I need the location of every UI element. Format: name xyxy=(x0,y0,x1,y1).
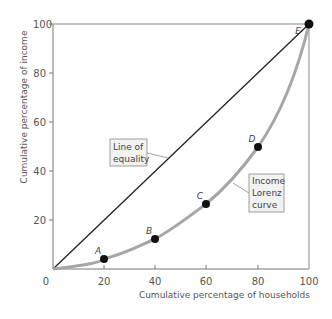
equality-annotation: Line of equality xyxy=(110,139,168,166)
y-tick-label-60: 60 xyxy=(33,117,46,128)
x-tick-label-100: 100 xyxy=(299,276,318,287)
y-tick-label-100: 100 xyxy=(33,19,52,30)
point-c-label: C xyxy=(197,191,204,201)
point-c xyxy=(202,200,210,208)
x-tick-label-40: 40 xyxy=(149,276,162,287)
equality-label-line1: Line of xyxy=(113,142,144,152)
lorenz-label-line3: curve xyxy=(252,200,278,210)
point-a-label: A xyxy=(94,246,101,256)
y-ticks xyxy=(49,24,53,220)
point-e xyxy=(305,20,314,29)
equality-label-line2: equality xyxy=(113,154,150,164)
x-axis-title: Cumulative percentage of households xyxy=(139,290,310,300)
y-axis-title: Cumulative percentage of income xyxy=(19,30,29,183)
y-tick-label-40: 40 xyxy=(33,166,46,177)
lorenz-label-line1: Income xyxy=(252,176,286,186)
point-b-label: B xyxy=(146,226,152,236)
lorenz-chart: 20 40 60 80 100 0 20 40 60 80 100 Cumula… xyxy=(0,0,332,319)
y-tick-label-80: 80 xyxy=(33,68,46,79)
point-e-label: E xyxy=(295,26,301,36)
line-of-equality xyxy=(53,24,309,269)
x-ticks xyxy=(104,265,258,269)
origin-label: 0 xyxy=(43,276,49,287)
x-tick-label-60: 60 xyxy=(200,276,213,287)
point-a xyxy=(100,255,108,263)
x-tick-label-80: 80 xyxy=(252,276,265,287)
point-b xyxy=(151,235,159,243)
lorenz-label-line2: Lorenz xyxy=(252,188,282,198)
lorenz-annotation: Income Lorenz curve xyxy=(233,174,286,212)
y-tick-label-20: 20 xyxy=(33,215,46,226)
x-tick-label-20: 20 xyxy=(98,276,111,287)
point-d-label: D xyxy=(249,134,256,144)
point-d xyxy=(254,143,262,151)
